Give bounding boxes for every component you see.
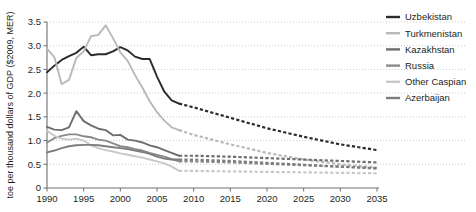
legend-label: Kazakhstan <box>405 44 455 55</box>
x-tick-label: 2030 <box>330 193 351 204</box>
x-tick-label: 2000 <box>110 193 131 204</box>
x-tick-label: 2015 <box>220 193 241 204</box>
y-tick-label: 1.0 <box>28 135 41 146</box>
line-chart: 00.51.01.52.02.53.03.5 19901995200020052… <box>0 0 476 212</box>
x-tick-label: 1995 <box>73 193 94 204</box>
y-tick-label: 2.5 <box>28 64 41 75</box>
y-tick-label: 2.0 <box>28 88 41 99</box>
x-tick-label: 2005 <box>146 193 167 204</box>
legend-label: Turkmenistan <box>405 28 462 39</box>
y-tick-label: 1.5 <box>28 111 41 122</box>
y-tick-label: 3.0 <box>28 40 41 51</box>
x-tick-label: 2020 <box>256 193 277 204</box>
legend-label: Azerbaijan <box>405 92 450 103</box>
x-tick-label: 2010 <box>183 193 204 204</box>
legend-label: Other Caspian <box>405 76 466 87</box>
y-tick-label: 3.5 <box>28 16 41 27</box>
y-tick-label: 0.5 <box>28 159 41 170</box>
x-tick-label: 2035 <box>366 193 387 204</box>
x-tick-label: 2025 <box>293 193 314 204</box>
y-axis-title: toe per thousand dollars of GDP ($2009, … <box>5 12 15 199</box>
y-tick-label: 0 <box>36 182 41 193</box>
legend-label: Russia <box>405 60 435 71</box>
legend-label: Uzbekistan <box>405 11 452 22</box>
chart-figure: 00.51.01.52.02.53.03.5 19901995200020052… <box>0 0 476 212</box>
x-tick-label: 1990 <box>36 193 57 204</box>
